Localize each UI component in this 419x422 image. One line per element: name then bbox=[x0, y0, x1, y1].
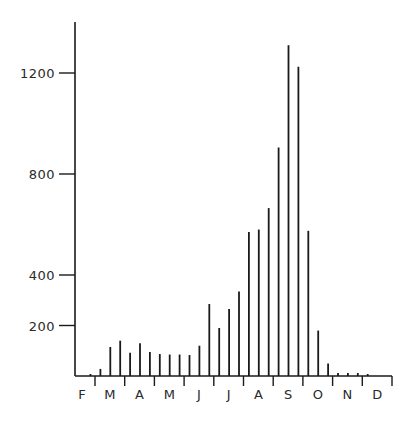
month-label: A bbox=[254, 387, 263, 402]
x-axis-ticks: FMAMJJASOND bbox=[78, 376, 392, 402]
bars bbox=[91, 45, 368, 376]
y-tick-label: 400 bbox=[29, 268, 55, 283]
y-tick-label: 1200 bbox=[20, 66, 55, 81]
y-tick-label: 800 bbox=[29, 167, 55, 182]
month-label: M bbox=[104, 387, 115, 402]
month-label: D bbox=[372, 387, 382, 402]
bar-chart: 2004008001200 FMAMJJASOND bbox=[0, 0, 419, 422]
y-tick-label: 200 bbox=[29, 319, 55, 334]
month-label: A bbox=[135, 387, 144, 402]
month-label: F bbox=[78, 387, 85, 402]
month-label: S bbox=[284, 387, 292, 402]
month-label: J bbox=[226, 387, 231, 402]
month-label: O bbox=[313, 387, 323, 402]
y-axis-ticks: 2004008001200 bbox=[20, 66, 75, 334]
month-label: M bbox=[164, 387, 175, 402]
month-label: J bbox=[196, 387, 201, 402]
month-label: N bbox=[343, 387, 353, 402]
